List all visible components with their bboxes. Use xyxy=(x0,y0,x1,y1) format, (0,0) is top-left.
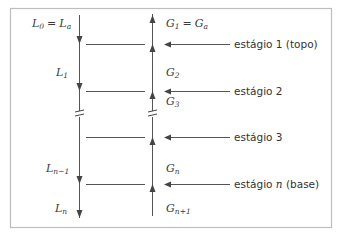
up-arrow-icon xyxy=(150,44,156,52)
up-arrow-icon xyxy=(150,137,156,145)
up-arrow-icon xyxy=(150,184,156,192)
stage-label-3: estágio 3 xyxy=(234,131,283,143)
left-arrow-icon xyxy=(164,42,171,48)
down-arrow-icon xyxy=(77,176,83,184)
label-L0-La: L0=La xyxy=(31,17,71,31)
left-arrow-icon xyxy=(164,135,171,141)
stage-label-2: estágio 2 xyxy=(234,85,283,97)
countercurrent-stage-diagram: L0=La L1 Ln−1 Ln G1=Ga G2 G3 Gn Gn+1 est… xyxy=(0,0,342,235)
stage-lines xyxy=(86,45,145,185)
gas-stream xyxy=(148,14,157,216)
stage-label-n: estágio n (base) xyxy=(234,178,319,190)
left-arrow-icon xyxy=(164,182,171,188)
label-Gn: Gn xyxy=(166,162,180,176)
down-arrow-icon xyxy=(77,83,83,91)
break-mark-icon xyxy=(148,110,157,116)
label-G2: G2 xyxy=(166,66,180,80)
break-mark-icon xyxy=(75,110,84,116)
label-Ln-1: Ln−1 xyxy=(45,162,69,176)
up-arrow-icon xyxy=(150,15,156,23)
label-G3: G3 xyxy=(166,95,180,109)
down-arrow-icon xyxy=(77,210,83,218)
liquid-stream xyxy=(75,15,84,218)
down-arrow-icon xyxy=(77,36,83,44)
stage-label-1: estágio 1 (topo) xyxy=(234,38,318,50)
left-arrow-icon xyxy=(164,89,171,95)
label-Ln: Ln xyxy=(54,202,67,216)
label-Gn+1: Gn+1 xyxy=(166,202,191,216)
label-G1-Ga: G1=Ga xyxy=(166,17,208,31)
label-L1: L1 xyxy=(55,66,68,80)
up-arrow-icon xyxy=(150,91,156,99)
